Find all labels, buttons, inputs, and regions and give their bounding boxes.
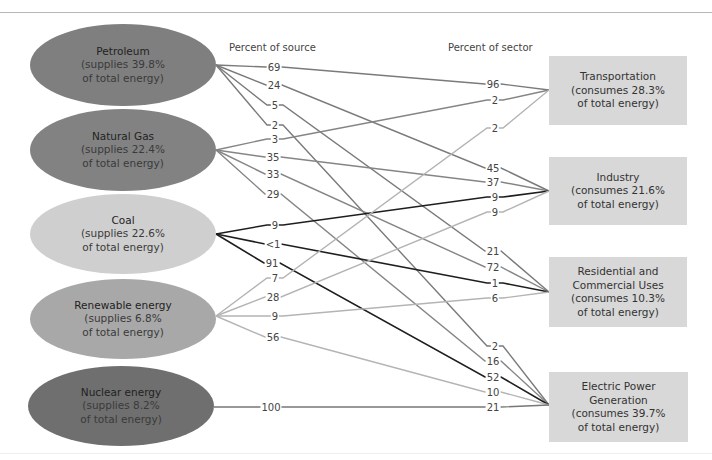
flow-label-source: 91 (265, 258, 280, 269)
bottom-divider (0, 453, 712, 454)
flow-label-sector: 10 (486, 387, 501, 398)
sector-residential: Residential and Commercial Uses (consume… (549, 257, 687, 327)
header-percent-of-source: Percent of source (229, 42, 316, 53)
source-share: (supplies 8.2% (82, 399, 159, 413)
sector-share-suffix: of total energy) (578, 421, 660, 435)
flow-label-source: 9 (271, 311, 279, 322)
sector-name: Transportation (580, 70, 656, 84)
flow-label-source: 29 (266, 189, 281, 200)
flow-label-sector: 72 (486, 262, 501, 273)
sector-share-suffix: of total energy) (577, 97, 659, 111)
source-coal: Coal (supplies 22.6% of total energy) (30, 194, 216, 274)
flow-line-petroleum-to-electric (216, 65, 549, 405)
source-share-suffix: of total energy) (82, 241, 164, 255)
flow-label-sector: 52 (486, 372, 501, 383)
flow-label-source: 33 (266, 169, 281, 180)
source-name: Renewable energy (74, 299, 171, 313)
flow-label-sector: 21 (486, 246, 501, 257)
flow-label-sector: 1 (491, 278, 499, 289)
flow-label-source: 7 (271, 273, 279, 284)
flow-label-source: 5 (271, 100, 279, 111)
sector-name-line-a: Electric Power (582, 380, 656, 394)
source-share: (supplies 39.8% (81, 58, 165, 72)
flow-label-source: 56 (266, 332, 281, 343)
flow-label-source: 3 (271, 134, 279, 145)
sector-name-line-b: Generation (589, 394, 648, 408)
sector-share-suffix: of total energy) (577, 306, 659, 320)
flow-label-sector: 21 (486, 402, 501, 413)
sector-transportation: Transportation (consumes 28.3% of total … (549, 56, 687, 125)
flow-label-source: 24 (267, 80, 282, 91)
flow-label-sector: 2 (491, 123, 499, 134)
source-share: (supplies 22.4% (81, 143, 165, 157)
flow-label-source: 2 (271, 120, 279, 131)
flow-label-source: 69 (267, 62, 282, 73)
sector-name: Industry (596, 171, 639, 185)
source-name: Coal (111, 214, 134, 228)
flow-label-sector: 45 (486, 163, 501, 174)
flow-label-sector: 2 (491, 95, 499, 106)
sector-name-line-b: Commercial Uses (572, 279, 663, 293)
source-name: Nuclear energy (81, 386, 161, 400)
source-share-suffix: of total energy) (82, 72, 164, 86)
flow-label-source: <1 (265, 239, 282, 250)
flow-label-sector: 9 (491, 192, 499, 203)
source-renewable: Renewable energy (supplies 6.8% of total… (30, 279, 216, 359)
source-name: Natural Gas (92, 130, 154, 144)
source-share-suffix: of total energy) (80, 413, 162, 427)
sector-industry: Industry (consumes 21.6% of total energy… (549, 157, 687, 225)
flow-label-source: 100 (260, 402, 281, 413)
source-natural-gas: Natural Gas (supplies 22.4% of total ene… (30, 109, 216, 191)
flow-label-sector: 2 (491, 341, 499, 352)
source-share-suffix: of total energy) (82, 157, 164, 171)
flow-label-sector: 9 (491, 207, 499, 218)
sector-share: (consumes 10.3% (571, 292, 665, 306)
flow-label-sector: 37 (486, 177, 501, 188)
source-name: Petroleum (96, 45, 149, 59)
sector-share: (consumes 39.7% (572, 407, 666, 421)
source-share: (supplies 6.8% (84, 312, 161, 326)
source-share: (supplies 22.6% (81, 227, 165, 241)
sector-share: (consumes 21.6% (571, 184, 665, 198)
flow-label-sector: 6 (491, 293, 499, 304)
flow-label-source: 35 (266, 152, 281, 163)
flow-label-sector: 16 (486, 356, 501, 367)
sector-share-suffix: of total energy) (577, 198, 659, 212)
sector-name-line-a: Residential and (578, 265, 659, 279)
flow-label-source: 28 (266, 292, 281, 303)
flow-label-source: 9 (271, 220, 279, 231)
source-petroleum: Petroleum (supplies 39.8% of total energ… (30, 24, 216, 106)
sector-electric: Electric Power Generation (consumes 39.7… (549, 372, 688, 442)
source-nuclear: Nuclear energy (supplies 8.2% of total e… (28, 366, 214, 446)
sector-share: (consumes 28.3% (571, 84, 665, 98)
flow-label-sector: 96 (486, 79, 501, 90)
header-percent-of-sector: Percent of sector (448, 42, 533, 53)
source-share-suffix: of total energy) (82, 326, 164, 340)
